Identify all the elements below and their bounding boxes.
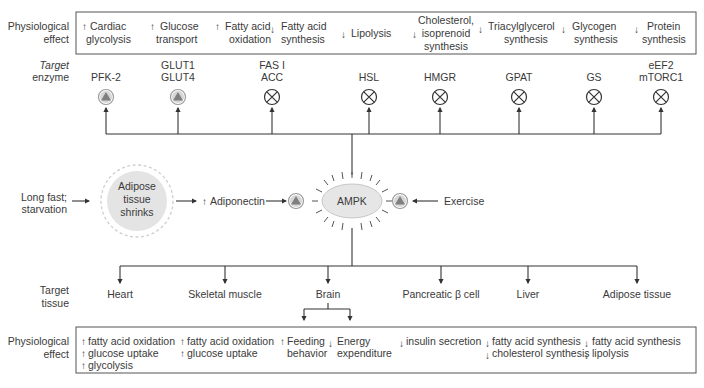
enzyme-row-label-line2: enzyme bbox=[32, 71, 69, 83]
up-arrow-icon: ↑ bbox=[150, 21, 155, 32]
svg-text:Cardiac: Cardiac bbox=[90, 20, 126, 32]
top-effect-row: Physiological effect ↑ Cardiac glycolysi… bbox=[8, 12, 696, 54]
activation-icon bbox=[171, 90, 186, 105]
bottom-row-label-line1: Physiological bbox=[8, 335, 69, 347]
svg-text:mTORC1: mTORC1 bbox=[639, 71, 683, 83]
enzyme-gs: GS bbox=[586, 71, 601, 105]
svg-text:behavior: behavior bbox=[287, 347, 328, 359]
svg-text:fatty acid oxidation: fatty acid oxidation bbox=[88, 335, 175, 347]
svg-text:synthesis: synthesis bbox=[424, 40, 468, 52]
svg-text:GLUT4: GLUT4 bbox=[161, 71, 195, 83]
svg-text:GLUT1: GLUT1 bbox=[161, 59, 195, 71]
up-arrow-icon: ↑ bbox=[280, 336, 285, 347]
down-arrow-icon: ↓ bbox=[634, 24, 639, 35]
down-arrow-icon: ↓ bbox=[561, 24, 566, 35]
ampk-pathway-diagram: Physiological effect ↑ Cardiac glycolysi… bbox=[0, 0, 704, 388]
ampk-label: AMPK bbox=[337, 195, 367, 207]
tissue-heart: Heart bbox=[107, 288, 133, 300]
svg-text:Triacylglycerol: Triacylglycerol bbox=[488, 20, 555, 32]
svg-text:eEF2: eEF2 bbox=[648, 59, 673, 71]
tissue-pancreatic-beta-cell: Pancreatic β cell bbox=[402, 288, 479, 300]
down-arrow-icon: ↓ bbox=[485, 338, 490, 349]
activation-icon bbox=[289, 194, 304, 209]
up-arrow-icon: ↑ bbox=[81, 348, 86, 359]
tissue-row-label-line1: Target bbox=[40, 284, 69, 296]
bottom-effect-liver: ↓ fatty acid synthesis ↓ cholesterol syn… bbox=[485, 335, 589, 361]
tissue-skeletal-muscle: Skeletal muscle bbox=[188, 288, 262, 300]
svg-text:Fatty acid: Fatty acid bbox=[281, 20, 327, 32]
svg-text:Cholesterol,: Cholesterol, bbox=[418, 14, 474, 26]
tissue-row: Target tissue Heart Skeletal muscle Brai… bbox=[40, 284, 671, 320]
svg-text:oxidation: oxidation bbox=[229, 33, 271, 45]
bottom-effect-pancreatic: ↓ insulin secretion bbox=[399, 335, 481, 349]
svg-text:insulin secretion: insulin secretion bbox=[406, 335, 481, 347]
svg-text:fatty acid oxidation: fatty acid oxidation bbox=[187, 335, 274, 347]
enzyme-fas-acc: FAS I ACC bbox=[259, 59, 285, 105]
svg-text:synthesis: synthesis bbox=[642, 33, 686, 45]
tissue-adipose: Adipose tissue bbox=[603, 288, 671, 300]
down-arrow-icon: ↓ bbox=[270, 24, 275, 35]
activation-icon bbox=[393, 194, 408, 209]
lower-connector-tree bbox=[120, 228, 637, 283]
enzyme-hsl: HSL bbox=[359, 71, 380, 105]
tissue-brain: Brain bbox=[316, 288, 341, 300]
up-arrow-icon: ↑ bbox=[215, 21, 220, 32]
svg-text:glycolysis: glycolysis bbox=[86, 33, 131, 45]
enzyme-row: Target enzyme PFK-2 GLUT1 GLUT4 FAS I AC… bbox=[32, 59, 683, 105]
bottom-effect-brain-feeding: ↑ Feeding behavior bbox=[280, 335, 328, 359]
up-arrow-icon: ↑ bbox=[202, 196, 207, 207]
svg-text:GS: GS bbox=[586, 71, 601, 83]
enzyme-eef2-mtorc1: eEF2 mTORC1 bbox=[639, 59, 683, 105]
svg-text:HMGR: HMGR bbox=[424, 71, 456, 83]
svg-text:fatty acid synthesis: fatty acid synthesis bbox=[592, 335, 681, 347]
tissue-row-label-line2: tissue bbox=[42, 297, 70, 309]
svg-text:HSL: HSL bbox=[359, 71, 380, 83]
svg-text:Glucose: Glucose bbox=[160, 20, 199, 32]
down-arrow-icon: ↓ bbox=[584, 338, 589, 349]
ampk-node: AMPK bbox=[312, 172, 392, 230]
trigger-starvation: starvation bbox=[21, 203, 67, 215]
svg-text:synthesis: synthesis bbox=[574, 33, 618, 45]
down-arrow-icon: ↓ bbox=[478, 24, 483, 35]
enzyme-hmgr: HMGR bbox=[424, 71, 456, 105]
down-arrow-icon: ↓ bbox=[412, 29, 417, 40]
svg-text:Glycogen: Glycogen bbox=[572, 20, 617, 32]
top-row-label-line2: effect bbox=[44, 33, 70, 45]
svg-text:expenditure: expenditure bbox=[337, 347, 392, 359]
svg-text:fatty acid synthesis: fatty acid synthesis bbox=[492, 335, 581, 347]
svg-text:FAS I: FAS I bbox=[259, 59, 285, 71]
svg-text:Feeding: Feeding bbox=[287, 335, 325, 347]
svg-text:Fatty acid: Fatty acid bbox=[225, 20, 271, 32]
svg-text:glycolysis: glycolysis bbox=[88, 359, 133, 371]
upper-connector-tree bbox=[106, 108, 661, 175]
svg-text:Energy: Energy bbox=[337, 335, 371, 347]
tissue-liver: Liver bbox=[517, 288, 540, 300]
adiponectin-label: Adiponectin bbox=[210, 195, 265, 207]
exercise-label: Exercise bbox=[444, 195, 484, 207]
down-arrow-icon: ↓ bbox=[341, 29, 346, 40]
svg-text:isoprenoid: isoprenoid bbox=[422, 27, 471, 39]
svg-text:synthesis: synthesis bbox=[504, 33, 548, 45]
svg-text:PFK-2: PFK-2 bbox=[91, 71, 121, 83]
adipose-shrinks-node: Adipose tissue shrinks bbox=[101, 165, 173, 237]
svg-text:synthesis: synthesis bbox=[281, 33, 325, 45]
inhibition-icon bbox=[362, 90, 377, 105]
inhibition-icon bbox=[265, 90, 280, 105]
svg-text:tissue: tissue bbox=[123, 193, 151, 205]
down-arrow-icon: ↓ bbox=[399, 338, 404, 349]
svg-text:transport: transport bbox=[156, 33, 198, 45]
inhibition-icon bbox=[433, 90, 448, 105]
up-arrow-icon: ↑ bbox=[81, 336, 86, 347]
svg-text:cholesterol synthesis: cholesterol synthesis bbox=[492, 347, 589, 359]
enzyme-row-label-line1: Target bbox=[40, 59, 70, 71]
down-arrow-icon: ↓ bbox=[584, 350, 589, 361]
svg-text:glucose uptake: glucose uptake bbox=[187, 347, 258, 359]
svg-text:glucose uptake: glucose uptake bbox=[88, 347, 159, 359]
up-arrow-icon: ↑ bbox=[180, 336, 185, 347]
inhibition-icon bbox=[587, 90, 602, 105]
activation-icon bbox=[99, 90, 114, 105]
enzyme-pfk2: PFK-2 bbox=[91, 71, 121, 105]
down-arrow-icon: ↓ bbox=[485, 350, 490, 361]
up-arrow-icon: ↑ bbox=[81, 360, 86, 371]
svg-text:shrinks: shrinks bbox=[120, 206, 153, 218]
